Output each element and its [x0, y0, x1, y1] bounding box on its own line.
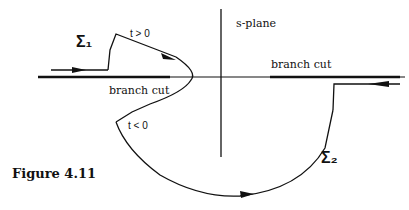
t-positive-label: t > 0 [130, 28, 150, 39]
arrow-right-icon [72, 67, 86, 73]
contour-sigma1-path [108, 34, 176, 70]
sigma1-label: Σ₁ [76, 33, 93, 50]
contour-sigma2-arc [116, 110, 333, 196]
arrow-right-icon [240, 191, 254, 198]
branch-cut-right-label: branch cut [271, 58, 332, 71]
s-plane-label: s-plane [236, 17, 276, 30]
figure-caption: Figure 4.11 [12, 166, 96, 181]
arrow-left-icon [368, 81, 389, 87]
contour-sigma2-exit [333, 84, 400, 110]
branch-cut-left-label: branch cut [109, 84, 170, 97]
sigma2-label: Σ₂ [321, 149, 338, 166]
t-negative-label: t < 0 [128, 120, 148, 131]
